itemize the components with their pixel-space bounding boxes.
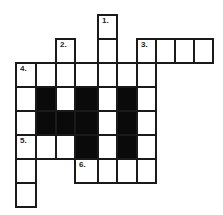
answer-cell[interactable]: [155, 38, 176, 64]
answer-cell[interactable]: [136, 86, 157, 112]
answer-cell[interactable]: [116, 158, 138, 184]
answer-cell[interactable]: [97, 134, 118, 160]
answer-cell[interactable]: [97, 110, 118, 136]
answer-cell[interactable]: [136, 62, 157, 88]
answer-cell[interactable]: [15, 110, 37, 136]
block-cell: [74, 110, 99, 136]
answer-cell[interactable]: [15, 86, 37, 112]
block-cell: [116, 110, 138, 136]
answer-cell[interactable]: [136, 158, 157, 184]
answer-cell[interactable]: [35, 134, 57, 160]
block-cell: [116, 134, 138, 160]
answer-cell[interactable]: [193, 38, 214, 64]
answer-cell[interactable]: 5.: [15, 134, 37, 160]
clue-number: 3.: [141, 41, 148, 49]
clue-number: 6.: [79, 161, 86, 169]
answer-cell[interactable]: [97, 38, 118, 64]
block-cell: [116, 86, 138, 112]
answer-cell[interactable]: 3.: [136, 38, 157, 64]
block-cell: [74, 134, 99, 160]
answer-cell[interactable]: [174, 38, 195, 64]
block-cell: [74, 86, 99, 112]
answer-cell[interactable]: [55, 62, 76, 88]
clue-number: 2.: [60, 41, 67, 49]
answer-cell[interactable]: [74, 62, 99, 88]
clue-number: 4.: [20, 65, 27, 73]
answer-cell[interactable]: [55, 86, 76, 112]
block-cell: [55, 110, 76, 136]
answer-cell[interactable]: 4.: [15, 62, 37, 88]
answer-cell[interactable]: 2.: [55, 38, 76, 64]
answer-cell[interactable]: [97, 62, 118, 88]
answer-cell[interactable]: [15, 158, 37, 184]
clue-number: 5.: [20, 137, 27, 145]
answer-cell[interactable]: [136, 110, 157, 136]
answer-cell[interactable]: [97, 158, 118, 184]
answer-cell[interactable]: [97, 86, 118, 112]
block-cell: [35, 86, 57, 112]
clue-number: 1.: [102, 17, 109, 25]
answer-cell[interactable]: [35, 62, 57, 88]
answer-cell[interactable]: 1.: [97, 14, 118, 40]
answer-cell[interactable]: [55, 134, 76, 160]
answer-cell[interactable]: [116, 62, 138, 88]
answer-cell[interactable]: [15, 182, 37, 208]
answer-cell[interactable]: [136, 134, 157, 160]
answer-cell[interactable]: 6.: [74, 158, 99, 184]
block-cell: [35, 110, 57, 136]
